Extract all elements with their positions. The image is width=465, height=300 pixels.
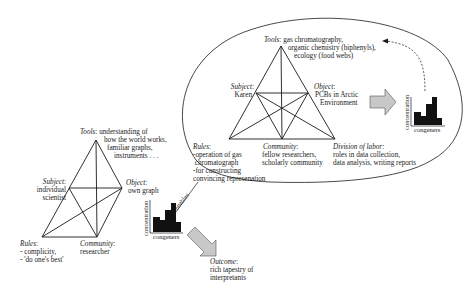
left-tools-heading: Tools	[80, 128, 95, 136]
right-community-line-2: scholarly community	[262, 159, 323, 167]
left-tools-line-3: familiar graphs,	[107, 144, 153, 152]
right-subject-line-1: Karen	[212, 91, 252, 99]
object-to-graph-arrow	[370, 89, 396, 115]
left-subject-line-2: scientist	[14, 194, 66, 202]
right-mini-chart	[411, 97, 445, 126]
left-community-label: Community:	[80, 240, 115, 248]
right-subject-label: Subject:	[212, 83, 254, 91]
right-division-line-1: roles in data collection,	[333, 151, 400, 159]
right-community-label: Community:	[263, 143, 298, 151]
left-subject-line-1: individual	[14, 186, 66, 194]
right-community-line-1: fellow researchers,	[262, 151, 316, 159]
right-object-line-1: PCBs in Arctic	[315, 91, 358, 99]
right-object-label: Object:	[314, 83, 335, 91]
activity-theory-diagram: Tools: understanding of how the world wo…	[0, 0, 465, 300]
right-object-line-2: Environment	[320, 99, 358, 107]
diagram-lines	[0, 0, 465, 300]
right-rules-line-4: convincing represenation	[193, 175, 265, 183]
left-community-line-1: researcher	[80, 248, 110, 256]
left-tools-label: Tools: understanding of	[80, 128, 148, 136]
right-tools-line-2: organic chemistry (biphenyls),	[288, 44, 376, 52]
right-division-line-2: data analysis, writing reports	[333, 159, 416, 167]
right-division-label: Division of labor:	[333, 143, 384, 151]
right-rules-line-1: -operation of gas	[193, 151, 242, 159]
right-rules-label: Rules:	[193, 143, 211, 151]
left-chart-xlabel: congeners	[153, 233, 179, 240]
left-subject-label: Subject:	[20, 178, 66, 186]
left-object-label: Object:	[126, 179, 147, 187]
outcome-arrow	[187, 227, 216, 256]
outcome-label: Outcome:	[210, 258, 238, 266]
right-chart-xlabel: congeners	[414, 126, 440, 133]
outcome-line-1: rich tapestry of	[210, 266, 254, 274]
feedback-dashed-arrow	[386, 41, 425, 91]
left-tools-line-2: how the world works,	[104, 136, 167, 144]
right-chart-ylabel: concentration	[403, 95, 410, 130]
right-rules-line-3: -for constructing	[193, 167, 241, 175]
left-object-line-1: own graph	[128, 187, 159, 195]
right-tools-line-3: ecology (food webs)	[294, 52, 353, 60]
left-tools-line-4: instruments . . .	[114, 152, 158, 160]
left-rules-label: Rules:	[20, 240, 38, 248]
right-rules-line-2: chromatograph	[193, 159, 238, 167]
left-rules-line-2: - 'do one's best'	[20, 256, 64, 264]
left-rules-line-1: - complicity,	[20, 248, 56, 256]
left-chart-ylabel: concentration	[142, 201, 149, 236]
right-tools-label: Tools: gas chromatography,	[264, 36, 343, 44]
feedback-arrowhead-icon	[382, 39, 388, 44]
outcome-line-2: interpretants	[210, 274, 246, 282]
